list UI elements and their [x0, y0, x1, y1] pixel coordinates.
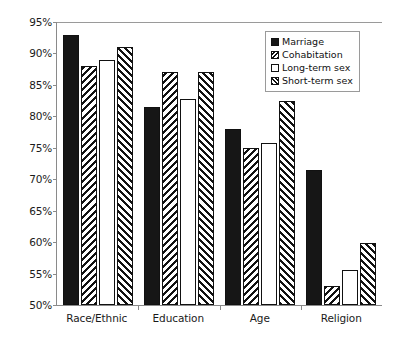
y-axis-tick-label: 95% — [29, 16, 52, 28]
x-axis-tick-label: Education — [138, 312, 220, 324]
y-axis-tick-label: 60% — [29, 236, 52, 248]
legend-swatch-icon — [271, 77, 279, 85]
y-axis-tick-label: 85% — [29, 79, 52, 91]
bar — [306, 170, 322, 305]
legend-label: Long-term sex — [282, 62, 350, 74]
legend-label: Cohabitation — [282, 49, 343, 61]
bar — [63, 35, 79, 305]
bar — [180, 99, 196, 305]
bar — [99, 60, 115, 305]
legend-swatch-icon — [271, 51, 279, 59]
x-axis-tick-label: Age — [219, 312, 301, 324]
bar-group — [57, 22, 138, 305]
y-axis-tick-label: 90% — [29, 47, 52, 59]
bar — [342, 270, 358, 305]
legend-item-long-term-sex: Long-term sex — [271, 62, 353, 74]
legend-item-short-term-sex: Short-term sex — [271, 75, 353, 87]
legend-label: Marriage — [282, 36, 324, 48]
y-axis-tick-label: 65% — [29, 205, 52, 217]
bar — [162, 72, 178, 305]
legend-item-cohabitation: Cohabitation — [271, 49, 353, 61]
bar-group — [138, 22, 219, 305]
bar — [117, 47, 133, 305]
legend-label: Short-term sex — [282, 75, 353, 87]
bar — [243, 148, 259, 305]
bar — [81, 66, 97, 305]
y-axis-tick-label: 70% — [29, 173, 52, 185]
y-axis-tick-label: 80% — [29, 110, 52, 122]
legend-item-marriage: Marriage — [271, 36, 353, 48]
bar — [225, 129, 241, 305]
y-axis-tick-label: 75% — [29, 142, 52, 154]
y-axis-tick-label: 55% — [29, 268, 52, 280]
bar-chart: 95% 90% 85% 80% 75% 70% 65% 60% 55% 50% — [0, 0, 400, 351]
x-axis-tick-label: Race/Ethnic — [56, 312, 138, 324]
bar — [360, 243, 376, 305]
bar — [198, 72, 214, 305]
y-axis-tick-label: 50% — [29, 299, 52, 311]
bar — [324, 286, 340, 305]
bar — [279, 101, 295, 305]
bar — [261, 143, 277, 305]
chart-legend: Marriage Cohabitation Long-term sex Shor… — [265, 31, 360, 92]
x-axis-labels: Race/Ethnic Education Age Religion — [56, 312, 382, 324]
x-axis-tick-label: Religion — [301, 312, 383, 324]
bar — [144, 107, 160, 305]
legend-swatch-icon — [271, 38, 279, 46]
legend-swatch-icon — [271, 64, 279, 72]
